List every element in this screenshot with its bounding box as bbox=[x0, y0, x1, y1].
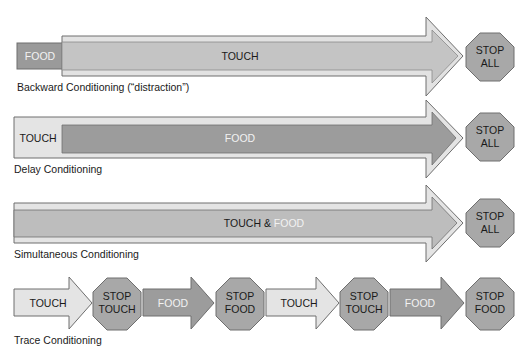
caption-backward: Backward Conditioning (“distraction”) bbox=[17, 81, 189, 93]
row-trace-conditioning: TOUCH STOP TOUCH FOOD STOP FOOD TOUCH ST… bbox=[14, 277, 514, 346]
trace-food-label-2: FOOD bbox=[405, 297, 436, 309]
caption-delay: Delay Conditioning bbox=[14, 163, 102, 175]
conditioning-diagram: FOOD TOUCH STOP ALL Backward Conditionin… bbox=[0, 0, 529, 348]
stop-sign-line1: STOP bbox=[476, 124, 504, 136]
stop-sign-line2: ALL bbox=[481, 223, 500, 235]
stop-line1: STOP bbox=[476, 290, 504, 302]
stop-line2: FOOD bbox=[225, 303, 256, 315]
caption-trace: Trace Conditioning bbox=[14, 334, 102, 346]
row-simultaneous-conditioning: TOUCH & FOOD STOP ALL Simultaneous Condi… bbox=[14, 185, 514, 262]
food-part: FOOD bbox=[274, 217, 305, 229]
stop-line1: STOP bbox=[350, 290, 378, 302]
touch-arrow-label: TOUCH bbox=[221, 50, 258, 62]
stop-sign-line1: STOP bbox=[476, 44, 504, 56]
row-delay-conditioning: TOUCH FOOD STOP ALL Delay Conditioning bbox=[14, 100, 514, 178]
touch-label: TOUCH bbox=[19, 132, 56, 144]
stop-line1: STOP bbox=[226, 290, 254, 302]
trace-touch-label-2: TOUCH bbox=[280, 297, 317, 309]
stop-line2: FOOD bbox=[475, 303, 506, 315]
caption-simultaneous: Simultaneous Conditioning bbox=[14, 248, 139, 260]
stop-line2: TOUCH bbox=[98, 303, 135, 315]
stop-sign-line2: ALL bbox=[481, 137, 500, 149]
stop-sign-line2: ALL bbox=[481, 57, 500, 69]
stop-line2: TOUCH bbox=[345, 303, 382, 315]
touch-food-label: TOUCH & FOOD bbox=[224, 217, 305, 229]
stop-line1: STOP bbox=[103, 290, 131, 302]
trace-touch-label-1: TOUCH bbox=[29, 297, 66, 309]
trace-food-label-1: FOOD bbox=[158, 297, 189, 309]
stop-sign-line1: STOP bbox=[476, 210, 504, 222]
touch-part: TOUCH & bbox=[224, 217, 274, 229]
food-label: FOOD bbox=[225, 132, 256, 144]
food-box-label: FOOD bbox=[25, 50, 56, 62]
row-backward-conditioning: FOOD TOUCH STOP ALL Backward Conditionin… bbox=[17, 17, 514, 96]
